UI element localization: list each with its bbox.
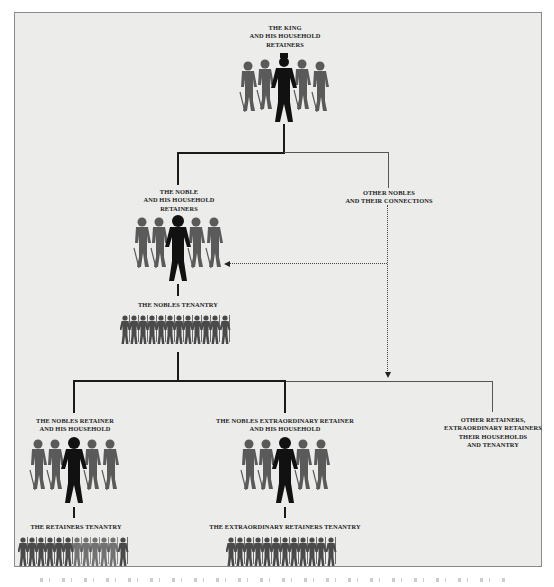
retainers-branch-right <box>285 381 493 382</box>
tenantry-to-retainers-connector <box>177 352 179 382</box>
extraordinary-tenantry-figures <box>226 534 342 568</box>
other-nobles-label: OTHER NOBLES AND THEIR CONNECTIONS <box>328 189 450 206</box>
lord-with-retainers-icon <box>130 214 226 284</box>
noble-label: THE NOBLE AND HIS HOUSEHOLD RETAINERS <box>132 188 226 213</box>
lord-with-retainers-icon <box>26 436 122 506</box>
noble-figure-group <box>130 214 226 284</box>
nobles-tenantry-figures <box>120 312 236 346</box>
extraordinary-retainer-figure-group <box>237 436 333 506</box>
retainers-tenantry-figures <box>18 534 134 568</box>
other-retainers-label: OTHER RETAINERS, EXTRAORDINARY RETAINERS… <box>438 416 548 449</box>
nobles-retainer-figure-group <box>26 436 122 506</box>
extraordinary-tenantry-label: THE EXTRAORDINARY RETAINERS TENANTRY <box>200 523 370 531</box>
king-branch-left <box>177 152 285 154</box>
noble-connector <box>177 152 179 185</box>
retainers-tenantry-connector <box>73 507 75 518</box>
king-figure-group <box>236 52 332 126</box>
tenants-row-icon <box>18 534 134 568</box>
arrowhead-left-icon <box>224 261 230 267</box>
caption-cropped <box>40 578 520 587</box>
king-connector-vertical <box>283 124 285 153</box>
tenants-row-icon <box>120 312 236 346</box>
king-label: THE KING AND HIS HOUSEHOLD RETAINERS <box>238 24 332 49</box>
king-branch-right <box>284 152 389 153</box>
extraordinary-retainer-label: THE NOBLES EXTRAORDINARY RETAINER AND HI… <box>200 417 370 434</box>
extraordinary-tenantry-connector <box>284 507 286 518</box>
arrowhead-down-icon <box>385 372 391 378</box>
extraordinary-retainer-connector <box>284 380 286 413</box>
nobles-retainer-connector <box>73 380 75 413</box>
retainers-branch-left <box>73 380 286 382</box>
noble-tenantry-connector <box>177 284 179 296</box>
nobles-tenantry-label: THE NOBLES TENANTRY <box>118 301 238 309</box>
lord-with-retainers-icon <box>237 436 333 506</box>
nobles-retainer-label: THE NOBLES RETAINER AND HIS HOUSEHOLD <box>20 417 130 434</box>
dotted-arrow-to-noble <box>229 263 387 264</box>
crowned-lord-with-retainers-icon <box>236 52 332 126</box>
retainers-tenantry-label: THE RETAINERS TENANTRY <box>16 523 136 531</box>
other-retainers-connector <box>492 381 493 412</box>
tenants-row-icon <box>226 534 342 568</box>
other-nobles-connector <box>388 152 389 188</box>
other-nobles-dotted-line <box>387 205 388 375</box>
